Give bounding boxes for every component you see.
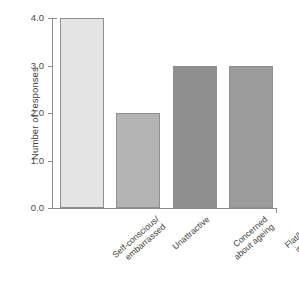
y-tick-0: 0.0 [48, 208, 53, 209]
y-tick-1: 1.0 [48, 161, 53, 162]
y-tick-label-2: 2.0 [31, 107, 44, 118]
x-tick-label-2: Concernedabout ageing [225, 214, 276, 262]
x-tick-label-0: Self-conscious/embarrassed [110, 214, 167, 267]
x-axis-end-tick [276, 208, 277, 213]
y-tick-2: 2.0 [48, 113, 53, 114]
x-tick-label-1: Unattractive [170, 214, 211, 252]
x-tick-label-3: Flat/lackingin fullness [283, 214, 299, 258]
x-axis-spine [52, 208, 277, 209]
y-tick-label-0: 0.0 [31, 202, 44, 213]
y-tick-4: 4.0 [48, 18, 53, 19]
y-tick-label-4: 4.0 [31, 12, 44, 23]
plot-area: 0.0 1.0 2.0 3.0 4.0 [52, 18, 277, 208]
bar-0 [60, 18, 104, 208]
y-tick-label-1: 1.0 [31, 155, 44, 166]
bar-chart: Number of responses 0.0 1.0 2.0 3.0 4.0 … [0, 0, 299, 286]
bar-2 [173, 66, 217, 209]
bar-1 [116, 113, 160, 208]
y-tick-3: 3.0 [48, 66, 53, 67]
y-tick-label-3: 3.0 [31, 60, 44, 71]
bar-3 [229, 66, 273, 209]
x-tick-label-1-line: Unattractive [170, 214, 211, 252]
